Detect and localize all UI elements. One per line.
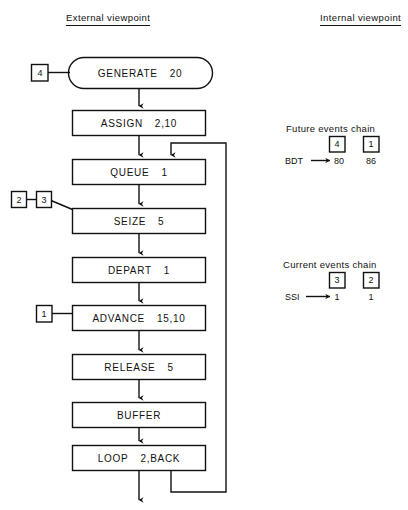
block-arg-queue: 1 [161,167,167,178]
tag-label-seize-2: 2 [16,195,21,205]
diagram-canvas: External viewpoint Internal viewpoint GE… [0,0,408,510]
block-label-assign: ASSIGN2,10 [101,118,177,129]
block-label-depart: DEPART1 [108,265,170,276]
tag-label-seize-3: 3 [41,195,46,205]
chain-clock-label-future: BDT [285,156,303,166]
block-arg-seize: 5 [158,216,164,227]
block-op-queue: QUEUE [110,167,149,178]
block-op-assign: ASSIGN [101,118,143,129]
block-op-seize: SEIZE [114,216,146,227]
block-label-loop: LOOP2,BACK [98,453,180,464]
chain-tag-current-1: 2 [368,275,373,285]
flowchart-vector-layer [0,0,408,510]
block-op-depart: DEPART [108,265,152,276]
chain-value-current-1: 1 [368,292,373,302]
block-arg-generate: 20 [170,68,183,79]
chain-clock-label-current: SSI [285,292,300,302]
block-arg-loop: 2,BACK [140,453,180,464]
chain-tag-current-0: 3 [334,275,339,285]
block-arg-depart: 1 [164,265,170,276]
block-arg-assign: 2,10 [155,118,177,129]
tag-label-generate: 4 [37,68,42,78]
block-arg-advance: 15,10 [157,313,186,324]
block-label-advance: ADVANCE15,10 [92,313,185,324]
block-op-generate: GENERATE [98,68,158,79]
block-label-release: RELEASE5 [104,362,173,373]
chain-value-current-0: 1 [334,292,339,302]
block-label-queue: QUEUE1 [110,167,167,178]
tag-label-advance: 1 [41,309,46,319]
header-internal-viewpoint: Internal viewpoint [320,12,401,26]
block-arg-release: 5 [167,362,173,373]
chain-tag-future-1: 1 [368,139,373,149]
block-op-advance: ADVANCE [92,313,145,324]
block-label-seize: SEIZE5 [114,216,165,227]
chain-value-future-0: 80 [334,156,344,166]
block-label-buffer: BUFFER [117,410,161,421]
block-label-generate: GENERATE20 [98,68,182,79]
block-op-loop: LOOP [98,453,129,464]
chain-title-future: Future events chain [286,123,375,134]
header-external-viewpoint: External viewpoint [66,12,150,26]
chain-tag-future-0: 4 [334,139,339,149]
chain-title-current: Current events chain [283,259,377,270]
block-op-release: RELEASE [104,362,155,373]
chain-value-future-1: 86 [366,156,376,166]
block-op-buffer: BUFFER [117,410,161,421]
tag-connector-3-seize [51,201,73,210]
